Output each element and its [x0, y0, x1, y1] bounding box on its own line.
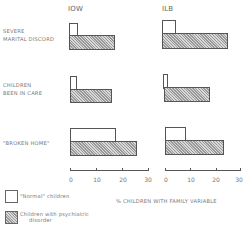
tick	[148, 168, 149, 171]
tick-label: 10	[187, 176, 195, 183]
tick-label: 0	[164, 176, 168, 183]
category-label-care-2: BEEN IN CARE	[3, 90, 42, 96]
tick-label: 10	[93, 176, 101, 183]
legend-swatch-normal	[5, 190, 18, 203]
panel-title-ilb: ILB	[162, 6, 173, 12]
bar-ilb-broken-psych	[165, 140, 224, 155]
bar-ilb-care-psych	[164, 87, 210, 102]
tick-label: 30	[235, 176, 243, 183]
tick-label: 0	[69, 176, 73, 183]
tick	[190, 168, 191, 171]
panel-title-iow: IOW	[68, 6, 83, 12]
bar-ilb-marital-normal	[162, 20, 176, 34]
category-label-care-1: CHILDREN	[3, 82, 31, 88]
tick-label: 30	[144, 176, 152, 183]
bar-iow-marital-psych	[69, 35, 115, 50]
legend-label-normal: "Normal" children	[20, 193, 69, 199]
x-axis-iow	[70, 170, 148, 171]
bar-iow-broken-normal	[70, 128, 116, 142]
category-label-marital-1: SEVERE	[3, 28, 24, 34]
tick	[122, 168, 123, 171]
bar-iow-care-psych	[70, 89, 112, 103]
legend-swatch-psych	[5, 211, 18, 224]
bar-iow-broken-psych	[70, 141, 137, 156]
tick	[240, 168, 241, 171]
tick-label: 20	[119, 176, 127, 183]
x-axis-ilb	[165, 170, 241, 171]
category-label-marital-2: MARITAL DISCORD	[3, 36, 54, 42]
bar-ilb-broken-normal	[165, 127, 186, 141]
tick	[70, 168, 71, 171]
category-label-broken-home: "BROKEN HOME"	[3, 140, 50, 146]
x-axis-label: % CHILDREN WITH FAMILY VARIABLE	[116, 198, 217, 204]
tick-label: 20	[212, 176, 220, 183]
tick	[165, 168, 166, 171]
tick	[96, 168, 97, 171]
tick	[216, 168, 217, 171]
bar-ilb-marital-psych	[162, 33, 228, 49]
bar-iow-care-normal	[70, 76, 77, 90]
legend-label-psych-2: disorder	[29, 217, 52, 223]
